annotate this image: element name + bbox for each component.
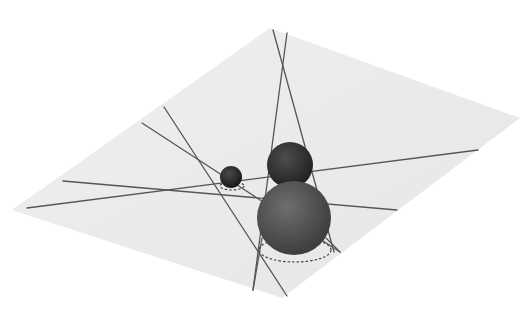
small-sphere [220,166,242,188]
medium-sphere [267,142,313,188]
large-sphere [257,181,331,255]
scene [0,0,530,314]
